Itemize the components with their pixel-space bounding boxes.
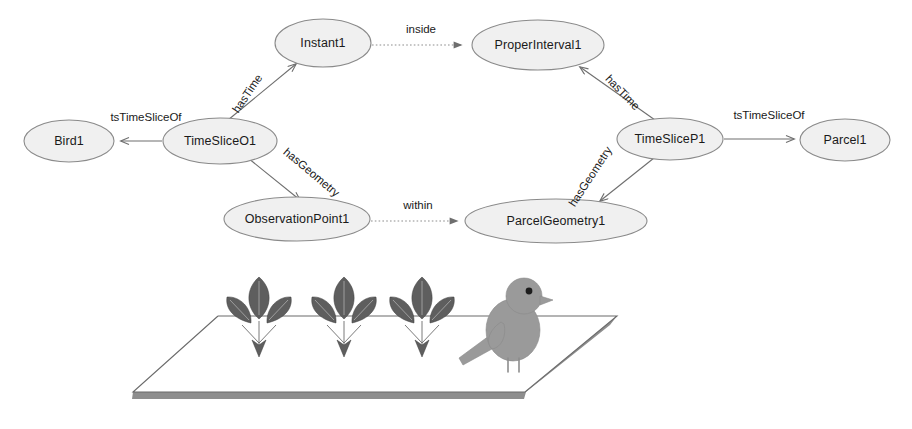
edge-timeslicep1-hasgeometry-parcelgeometry1 (600, 158, 654, 201)
edge-line (600, 158, 654, 201)
node-timesliceo1[interactable]: TimeSliceO1 (163, 118, 277, 164)
node-label-timesliceo1: TimeSliceO1 (184, 134, 256, 148)
bird-eye (526, 288, 533, 295)
edge-label-tstimesliceof-left: tsTimeSliceOf (110, 111, 182, 123)
bird-beak (540, 296, 553, 305)
node-label-timeslicep1: TimeSliceP1 (635, 132, 706, 146)
parcel-plane (132, 316, 617, 399)
edge-timesliceo1-hasgeometry-observationpoint1 (248, 158, 300, 200)
edge-label-hastime-left: hasTime (230, 72, 264, 115)
node-label-bird1: Bird1 (54, 134, 84, 148)
plant-3 (390, 277, 455, 357)
edge-label-inside: inside (406, 23, 436, 35)
edge-label-tstimesliceof-right: tsTimeSliceOf (733, 109, 805, 121)
node-label-parcel1: Parcel1 (823, 133, 866, 147)
bird-head (506, 278, 542, 314)
edge-line (248, 158, 300, 200)
node-parcelgeometry1[interactable]: ParcelGeometry1 (465, 199, 647, 243)
node-instant1[interactable]: Instant1 (275, 19, 371, 67)
bird-on-parcel-illustration (132, 277, 617, 399)
node-observationpoint1[interactable]: ObservationPoint1 (224, 197, 370, 241)
node-label-parcelgeometry1: ParcelGeometry1 (507, 214, 606, 228)
edge-label-within: within (402, 199, 432, 211)
nodes-layer: Instant1 ProperInterval1 Bird1 TimeSlice… (24, 19, 890, 243)
edge-label-hastime-right: hasTime (603, 72, 642, 112)
edge-labels-layer: inside hasTime tsTimeSliceOf hasGeometry… (110, 23, 805, 211)
node-bird1[interactable]: Bird1 (24, 120, 114, 162)
diagram-canvas: Instant1 ProperInterval1 Bird1 TimeSlice… (0, 0, 912, 429)
plant-2 (312, 277, 377, 357)
bird-figure (459, 278, 553, 372)
node-label-observationpoint1: ObservationPoint1 (245, 212, 350, 226)
node-parcel1[interactable]: Parcel1 (800, 119, 890, 161)
node-timeslicep1[interactable]: TimeSliceP1 (617, 118, 723, 160)
node-label-properinterval1: ProperInterval1 (495, 38, 582, 52)
plant-1 (227, 277, 292, 357)
ontology-diagram-svg: Instant1 ProperInterval1 Bird1 TimeSlice… (0, 0, 912, 429)
edge-label-hasgeometry-left: hasGeometry (281, 145, 342, 199)
node-label-instant1: Instant1 (300, 36, 345, 50)
plane-outline (133, 316, 617, 392)
edge-label-hasgeometry-right: hasGeometry (566, 144, 614, 209)
node-properinterval1[interactable]: ProperInterval1 (472, 20, 604, 70)
